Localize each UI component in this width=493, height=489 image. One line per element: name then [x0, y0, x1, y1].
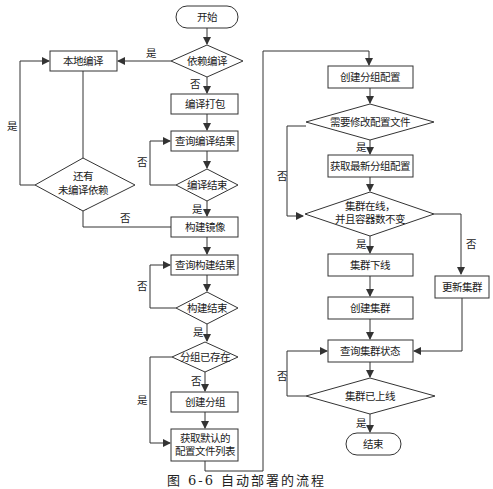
label-no: 否 — [137, 280, 148, 292]
process-query-cluster-status: 查询集群状态 — [328, 340, 413, 362]
label-no: 否 — [277, 370, 288, 382]
process-build-image: 构建镜像 — [171, 217, 238, 237]
label-no: 否 — [191, 375, 202, 387]
decision-compile-done: 编译结束 — [176, 169, 238, 201]
process-update-cluster: 更新集群 — [435, 276, 489, 298]
svg-text:配置文件列表: 配置文件列表 — [175, 445, 236, 457]
svg-text:并且容器数不变: 并且容器数不变 — [335, 213, 406, 225]
svg-text:获取最新分组配置: 获取最新分组配置 — [330, 160, 410, 172]
svg-text:分组已存在: 分组已存在 — [180, 351, 230, 363]
process-create-group-config: 创建分组配置 — [328, 66, 413, 88]
label-yes: 是 — [137, 394, 148, 406]
svg-text:结束: 结束 — [363, 438, 384, 450]
svg-text:还有: 还有 — [73, 170, 93, 182]
decision-group-exists: 分组已存在 — [172, 342, 238, 372]
svg-text:集群下线: 集群下线 — [350, 259, 391, 271]
svg-text:查询构建结果: 查询构建结果 — [175, 259, 236, 271]
svg-text:编译打包: 编译打包 — [185, 98, 226, 110]
svg-text:开始: 开始 — [197, 11, 218, 23]
svg-text:构建结束: 构建结束 — [187, 302, 228, 314]
label-no: 否 — [190, 78, 201, 90]
process-create-group: 创建分组 — [171, 392, 238, 412]
process-compile-package: 编译打包 — [171, 94, 238, 114]
label-yes: 是 — [146, 47, 157, 59]
start-terminal: 开始 — [176, 6, 238, 28]
process-query-build-result: 查询构建结果 — [171, 255, 238, 275]
decision-need-modify-config: 需要修改配置文件 — [306, 104, 434, 140]
label-yes: 是 — [193, 326, 204, 338]
svg-text:本地编译: 本地编译 — [63, 55, 104, 67]
svg-text:创建分组配置: 创建分组配置 — [340, 71, 400, 83]
svg-text:依赖编译: 依赖编译 — [187, 55, 228, 67]
decision-cluster-online: 集群在线， 并且容器数不变 — [305, 192, 434, 236]
label-yes: 是 — [7, 120, 18, 132]
svg-text:获取默认的: 获取默认的 — [180, 432, 230, 444]
label-no: 否 — [277, 170, 288, 182]
process-cluster-offline: 集群下线 — [328, 254, 413, 276]
decision-cluster-up: 集群已上线 — [306, 378, 435, 414]
svg-text:需要修改配置文件: 需要修改配置文件 — [330, 116, 410, 128]
process-create-cluster: 创建集群 — [328, 297, 413, 319]
label-yes: 是 — [356, 141, 367, 153]
process-local-compile: 本地编译 — [50, 51, 117, 71]
end-terminal: 结束 — [346, 433, 401, 455]
svg-text:集群在线，: 集群在线， — [345, 200, 395, 212]
svg-text:查询编译结果: 查询编译结果 — [175, 135, 236, 147]
decision-build-done: 构建结束 — [176, 292, 238, 324]
svg-text:查询集群状态: 查询集群状态 — [340, 345, 401, 357]
svg-text:编译结束: 编译结束 — [187, 179, 228, 191]
svg-text:创建分组: 创建分组 — [185, 396, 226, 408]
svg-text:创建集群: 创建集群 — [350, 302, 391, 314]
svg-text:更新集群: 更新集群 — [442, 281, 483, 293]
figure-caption: 图 6-6 自动部署的流程 — [0, 470, 493, 489]
svg-text:构建镜像: 构建镜像 — [185, 221, 226, 233]
label-yes: 是 — [356, 238, 367, 250]
label-yes: 是 — [356, 417, 367, 429]
process-get-latest-group-config: 获取最新分组配置 — [328, 155, 413, 177]
label-no: 否 — [120, 212, 131, 224]
label-no: 否 — [466, 238, 477, 250]
decision-dependency-compile: 依赖编译 — [171, 45, 243, 77]
svg-text:集群已上线: 集群已上线 — [345, 390, 396, 402]
process-query-compile-result: 查询编译结果 — [171, 131, 238, 151]
label-yes: 是 — [192, 203, 203, 215]
label-no: 否 — [137, 156, 148, 168]
svg-text:未编译依赖: 未编译依赖 — [58, 184, 109, 196]
process-get-default-config-list: 获取默认的 配置文件列表 — [171, 429, 238, 461]
